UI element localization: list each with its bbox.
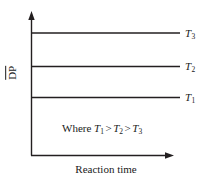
- series-label-t1-subscript: 1: [191, 96, 195, 105]
- series-label-t2-subscript: 2: [191, 65, 195, 74]
- annotation-prefix: Where: [62, 122, 91, 134]
- annotation-term-2-subscript: 2: [119, 127, 123, 136]
- isotherm-dp-vs-reaction-time-chart: T3 T2 T1 DP Reaction time Where T1>T2>T3: [0, 0, 213, 186]
- series-label-t1: T1: [185, 92, 195, 103]
- x-axis-label: Reaction time: [31, 163, 181, 175]
- series-label-t3: T3: [185, 28, 195, 39]
- annotation-term-1-subscript: 1: [100, 127, 104, 136]
- y-axis-label-text: DP: [5, 66, 19, 80]
- annotation-comparator-2: >: [123, 122, 132, 134]
- x-axis-arrowhead: [165, 152, 174, 158]
- chart-plot-area: [0, 0, 213, 186]
- chart-annotation: Where T1>T2>T3: [62, 123, 142, 134]
- y-axis-label: DP: [5, 51, 19, 95]
- series-label-t2: T2: [185, 61, 195, 72]
- y-axis-arrowhead: [28, 11, 34, 20]
- annotation-comparator-1: >: [104, 122, 113, 134]
- annotation-term-3-subscript: 3: [138, 127, 142, 136]
- series-label-t3-subscript: 3: [191, 32, 195, 41]
